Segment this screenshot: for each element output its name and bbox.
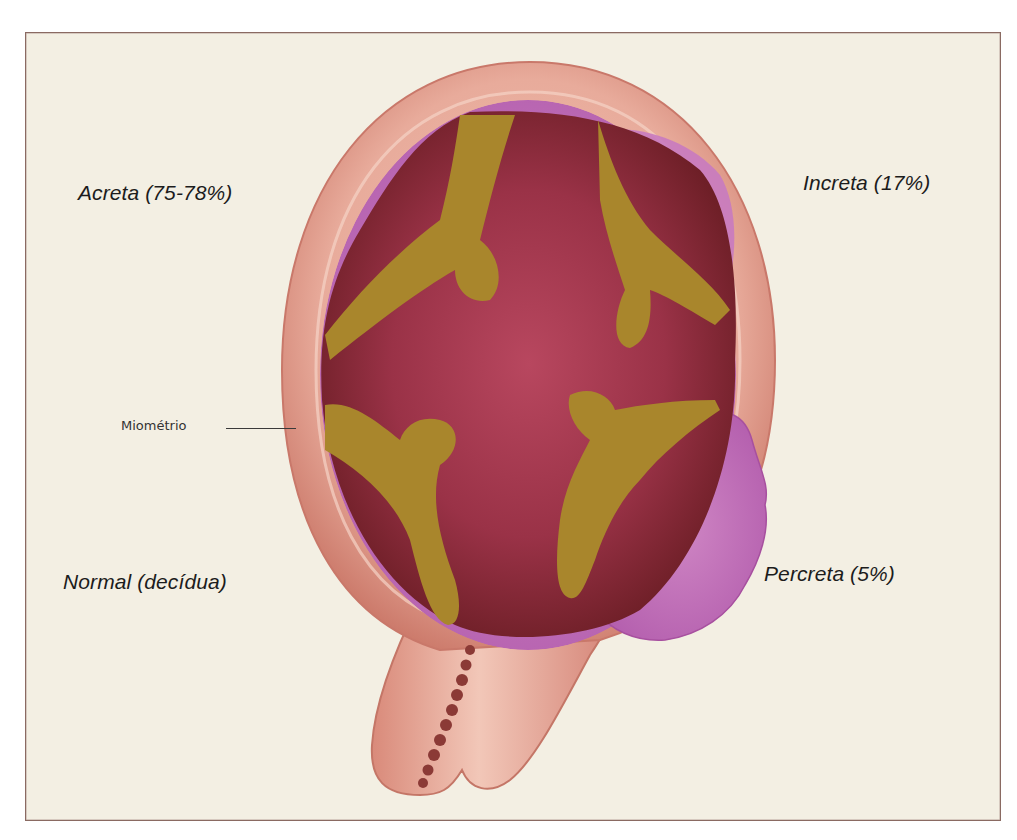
label-acreta: Acreta (75-78%) [78, 181, 232, 205]
label-normal: Normal (decídua) [63, 570, 227, 594]
label-miometrio: Miométrio [121, 418, 186, 433]
label-percreta: Percreta (5%) [764, 562, 895, 586]
label-increta: Increta (17%) [803, 171, 930, 195]
miometrio-leader-line [226, 428, 296, 429]
